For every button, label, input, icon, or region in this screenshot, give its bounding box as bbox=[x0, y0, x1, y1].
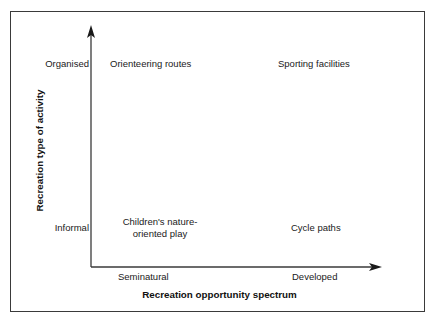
x-tick-label-seminatural: Seminatural bbox=[118, 271, 169, 283]
quadrant-label-cycle-paths: Cycle paths bbox=[291, 222, 341, 234]
x-tick-label-developed: Developed bbox=[292, 271, 337, 283]
y-axis-title: Recreation type of activity bbox=[34, 71, 45, 231]
figure-container: Organised Informal Orienteering routes S… bbox=[0, 0, 439, 327]
x-axis-title: Recreation opportunity spectrum bbox=[0, 289, 439, 300]
quadrant-label-sporting-facilities: Sporting facilities bbox=[278, 58, 350, 70]
y-tick-label-organised: Organised bbox=[45, 58, 89, 70]
y-tick-label-informal: Informal bbox=[55, 222, 89, 234]
axes-group bbox=[0, 0, 439, 327]
quadrant-label-childrens-nature-oriented-play: Children's nature- oriented play bbox=[110, 216, 210, 240]
quadrant-label-orienteering-routes: Orienteering routes bbox=[110, 58, 191, 70]
